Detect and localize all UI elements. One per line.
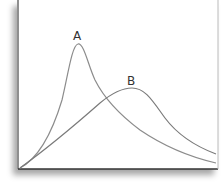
series-a-curve — [20, 44, 216, 168]
chart-plot: A B — [0, 0, 224, 184]
series-b-curve — [20, 88, 216, 168]
series-b-label: B — [127, 74, 135, 88]
series-a-label: A — [73, 29, 82, 43]
